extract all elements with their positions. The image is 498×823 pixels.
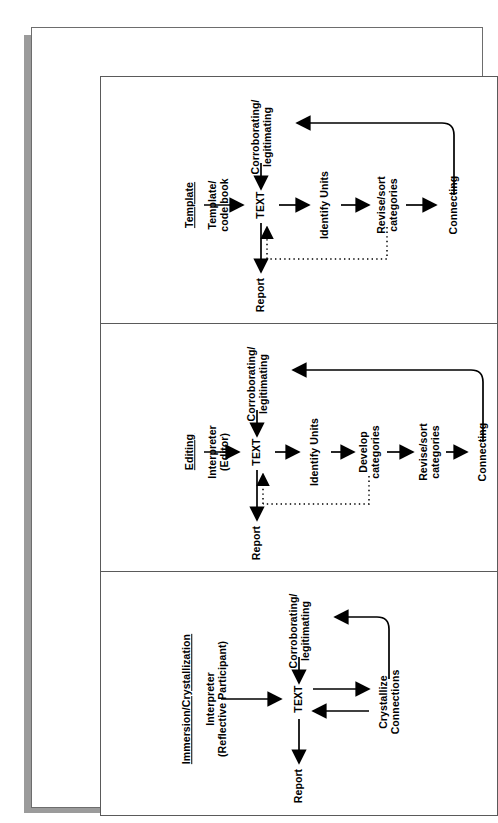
panel-editing-step-develop-categories: Develop categories [358,425,381,479]
panel-editing-step-revise-sort: Revise/sort categories [418,423,441,481]
panel-template-step-connecting: Connecting [448,176,460,235]
panel-editing-step-identify-units: Identify Units [309,418,321,486]
panel-editing-text-node: TEXT [251,438,263,465]
panel-immersion-step-crystallize-connections: Crystallize Connections [378,670,401,735]
panel-template-connectors [101,77,497,323]
panel-template-report-node: Report [255,278,267,312]
panel-editing: Editing Interpreter (Editor) TEXT Corrob… [101,323,497,572]
panel-immersion-text-node: TEXT [293,685,305,712]
panel-immersion-source-node: Interpreter (Reflective Participant) [205,641,228,757]
panel-template-heading: Template [184,182,196,228]
panel-template-step-identify-units: Identify Units [319,171,331,239]
panel-template-source-node: Template/ code book [207,178,230,231]
panel-immersion-heading: Immersion/Crystallization [181,634,193,764]
panel-editing-source-node: Interpreter (Editor) [207,425,230,479]
panel-immersion-corroborating-node: Corroborating/ legitimating [288,594,311,669]
panel-immersion-crystallization: Immersion/Crystallization Interpreter (R… [101,571,497,815]
panel-editing-report-node: Report [251,526,263,560]
panel-template-text-node: TEXT [255,191,267,218]
panel-editing-heading: Editing [184,434,196,470]
outer-frame: Template Template/ code book TEXT Corrob… [31,27,483,808]
panel-editing-corroborating-node: Corroborating/ legitimating [246,347,269,422]
panel-immersion-report-node: Report [293,769,305,803]
diagram-inner-border: Template Template/ code book TEXT Corrob… [100,76,498,816]
panel-editing-step-connecting: Connecting [477,423,489,482]
panel-template-step-revise-sort: Revise/sort categories [376,176,399,234]
panel-template: Template Template/ code book TEXT Corrob… [101,77,497,323]
panel-template-corroborating-node: Corroborating/ legitimating [250,100,273,175]
